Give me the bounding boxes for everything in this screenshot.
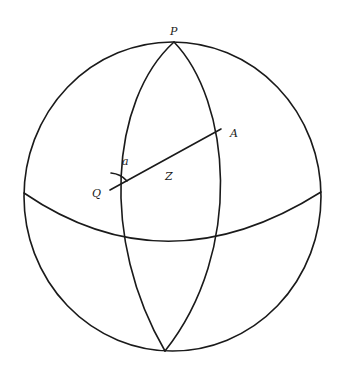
label-a: A bbox=[229, 127, 238, 140]
sphere-outline bbox=[24, 42, 321, 351]
label-q: Q bbox=[92, 187, 101, 200]
meridian-through-q bbox=[121, 42, 174, 351]
sphere-diagram: P A Q a Z bbox=[0, 0, 337, 372]
equator bbox=[24, 192, 321, 241]
label-p: P bbox=[169, 25, 178, 38]
label-angle-a: a bbox=[122, 155, 129, 168]
label-z: Z bbox=[164, 170, 173, 183]
meridian-through-a bbox=[165, 42, 221, 351]
angle-a-arc bbox=[111, 173, 127, 181]
